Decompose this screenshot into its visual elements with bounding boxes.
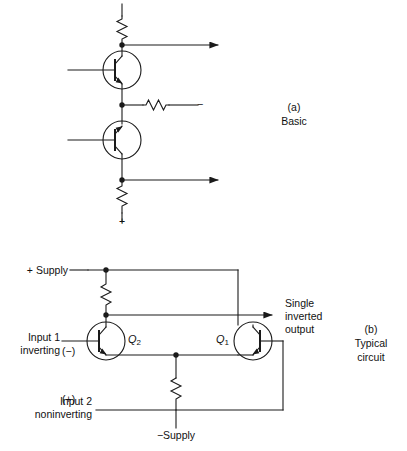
junction-dot-b-positive — [103, 267, 108, 272]
input2-label-line2: noninverting — [0, 408, 92, 421]
output-label-line3: output — [285, 323, 314, 336]
transistor-q2-label: Q2 — [128, 333, 141, 349]
panel-a-mid-resistor — [143, 100, 169, 110]
panel-a-schematic — [68, 4, 218, 222]
output-label-line1: Single — [285, 297, 314, 310]
panel-a-lower-lower-slant — [115, 146, 122, 154]
panel-a-upper-collector-slant — [115, 56, 122, 64]
junction-dot-a-mid — [119, 102, 124, 107]
panel-a-bottom-sign: + — [112, 215, 132, 228]
panel-a-mid-sign: − — [197, 98, 203, 111]
panel-a-caption-tag: (a) — [263, 101, 325, 114]
panel-b-collector-resistor — [101, 270, 111, 315]
panel-a-bottom-resistor — [117, 180, 127, 213]
panel-b-q2-collector-slant — [99, 327, 106, 335]
panel-a-top-resistor — [117, 16, 127, 45]
panel-b-caption-line1: Typical — [340, 337, 402, 350]
panel-b-caption-line2: circuit — [340, 351, 402, 364]
transistor-q2-letter: Q — [128, 333, 137, 345]
input2-label-line1: Input 2 — [0, 395, 92, 408]
output-label-line2: inverted — [285, 310, 322, 323]
panel-b-schematic — [62, 270, 283, 428]
negative-supply-label: −Supply — [141, 429, 211, 442]
circuit-schematic-svg — [0, 0, 407, 451]
junction-dot-b-output — [103, 312, 108, 317]
input1-label-line2: inverting — [0, 344, 60, 357]
input1-label-line1: Input 1 — [0, 331, 60, 344]
panel-a-caption-text: Basic — [263, 115, 325, 128]
panel-b-tail-resistor — [171, 378, 181, 410]
transistor-q1-label: Q1 — [216, 333, 229, 349]
panel-b-caption-tag: (b) — [340, 323, 402, 336]
positive-supply-label: + Supply — [6, 264, 68, 277]
junction-dot-a-top — [119, 42, 124, 47]
transistor-q2-subscript: 2 — [137, 338, 141, 347]
transistor-q1-letter: Q — [216, 333, 225, 345]
panel-b-q1-collector-slant — [253, 327, 260, 335]
input2-polarity-sign: (+) — [62, 393, 75, 406]
circuit-figure: (a) Basic − + + Supply −Supply Input 1 i… — [0, 0, 407, 451]
junction-dot-a-bottom — [119, 177, 124, 182]
input1-polarity-sign: (−) — [62, 345, 75, 358]
transistor-q1-subscript: 1 — [225, 338, 229, 347]
junction-dot-b-emitter — [173, 352, 178, 357]
